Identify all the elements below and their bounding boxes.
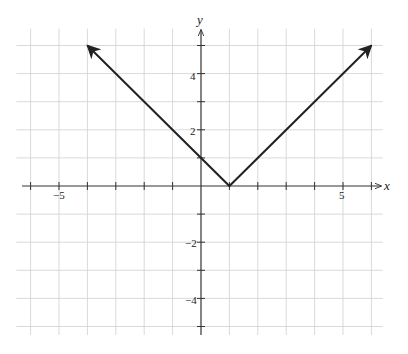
x-tick-label-neg5: −5 — [53, 189, 65, 201]
y-tick-label-neg2: −2 — [185, 237, 197, 249]
y-tick-label-4: 4 — [190, 70, 196, 82]
y-axis-label: y — [195, 12, 203, 27]
coordinate-plane: x y −5 5 4 2 −2 −4 — [0, 0, 408, 354]
x-tick-label-5: 5 — [339, 189, 345, 201]
x-axis-label: x — [383, 178, 390, 193]
y-tick-label-2: 2 — [190, 125, 196, 137]
grid-lines — [16, 29, 382, 335]
y-tick-label-neg4: −4 — [185, 294, 197, 306]
